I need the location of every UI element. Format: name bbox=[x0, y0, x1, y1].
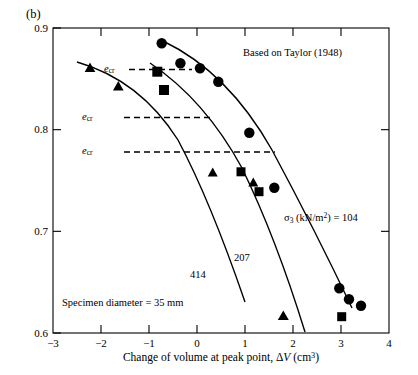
figure-panel: (b) Initial void ratio, e Change of volu… bbox=[0, 0, 418, 375]
data-point bbox=[255, 187, 264, 196]
data-point bbox=[269, 183, 279, 193]
data-point bbox=[159, 85, 169, 95]
data-point bbox=[157, 38, 167, 48]
fit-curve-207 bbox=[150, 63, 305, 332]
series-207-markers bbox=[152, 67, 346, 322]
data-point bbox=[337, 312, 346, 321]
data-point bbox=[208, 168, 218, 177]
data-point bbox=[344, 294, 354, 304]
fit-curve-104 bbox=[163, 41, 352, 308]
x-tick-marks bbox=[101, 28, 341, 333]
data-point bbox=[237, 167, 246, 176]
data-point bbox=[175, 58, 185, 68]
data-point bbox=[334, 283, 344, 293]
data-point bbox=[152, 67, 162, 77]
data-point bbox=[278, 311, 289, 321]
plot-area bbox=[0, 0, 418, 375]
data-point bbox=[356, 301, 366, 311]
data-point bbox=[213, 77, 223, 87]
data-point bbox=[244, 128, 254, 138]
data-point bbox=[248, 178, 258, 187]
data-point bbox=[195, 63, 205, 73]
ecr-dashed-lines bbox=[124, 70, 275, 153]
series-104-markers bbox=[157, 38, 367, 311]
fit-curve-414 bbox=[77, 62, 245, 302]
